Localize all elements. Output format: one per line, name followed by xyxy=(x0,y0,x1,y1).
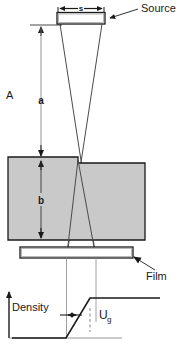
source-label: Source xyxy=(141,2,176,14)
source-size-label: s xyxy=(79,4,84,13)
ug-label-subscript: g xyxy=(107,315,111,324)
film-label: Film xyxy=(146,270,167,282)
film-callout: Film xyxy=(134,257,167,282)
distance-a-dimension: a xyxy=(30,25,62,156)
source-leader-line xyxy=(110,9,138,18)
film-strip-inner xyxy=(22,249,132,257)
density-axis-label: Density xyxy=(12,301,49,313)
film-leader-line xyxy=(134,257,155,270)
density-plot: Density U g xyxy=(9,292,160,338)
ug-dimension: U g xyxy=(60,308,111,332)
object-group-label: A xyxy=(6,89,14,101)
distance-a-label: a xyxy=(38,95,44,106)
source-callout: Source xyxy=(110,2,176,18)
source-size-dimension: s xyxy=(58,4,104,13)
source-block-inner xyxy=(59,14,104,23)
radiography-geometry-diagram: s Source A a b xyxy=(0,0,183,353)
diagram-canvas: s Source A a b xyxy=(0,0,183,353)
distance-b-label: b xyxy=(38,195,44,206)
